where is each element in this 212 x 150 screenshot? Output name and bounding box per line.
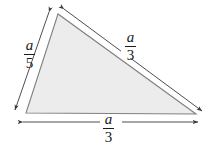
dimension-label-base: a 3 [103,112,114,145]
fraction-numerator: a [126,30,136,46]
fraction-denominator: 3 [105,129,113,145]
triangle-shape [26,14,196,114]
dimension-label-hypotenuse: a 3 [125,30,136,63]
geometry-figure: a 5 a 3 a 3 [0,0,212,150]
dimension-label-left-side: a 5 [24,38,35,71]
fraction-numerator: a [104,112,114,128]
fraction-numerator: a [25,38,35,54]
fraction-denominator: 5 [26,55,34,71]
fraction-denominator: 3 [127,47,135,63]
